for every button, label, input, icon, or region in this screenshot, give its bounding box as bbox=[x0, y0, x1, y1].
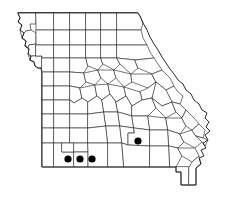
county-polygon bbox=[42, 100, 54, 114]
county-polygon bbox=[54, 100, 70, 114]
county-polygon bbox=[74, 143, 88, 152]
county-polygon bbox=[84, 70, 101, 85]
county-polygon bbox=[42, 143, 54, 167]
county-polygon bbox=[36, 45, 54, 58]
occurrence-dot bbox=[134, 137, 141, 144]
county-polygon bbox=[54, 45, 70, 58]
county-polygon bbox=[168, 130, 184, 148]
county-polygon bbox=[70, 72, 86, 88]
county-polygon bbox=[88, 143, 108, 167]
missouri-map-svg bbox=[0, 0, 225, 197]
occurrence-dot bbox=[76, 155, 83, 162]
county-polygon bbox=[54, 72, 70, 86]
county-distribution-map-figure bbox=[0, 0, 225, 197]
county-polygon bbox=[176, 167, 189, 185]
county-polygon bbox=[88, 126, 108, 143]
county-polygon bbox=[42, 86, 54, 100]
county-polygon bbox=[104, 112, 120, 126]
county-polygon bbox=[42, 72, 54, 86]
county-polygon bbox=[70, 58, 88, 73]
county-polygon bbox=[86, 13, 101, 30]
county-boundaries-layer bbox=[18, 13, 208, 185]
county-polygon bbox=[54, 86, 70, 100]
county-polygon bbox=[101, 30, 117, 45]
county-polygon bbox=[70, 13, 86, 30]
county-polygon bbox=[36, 13, 54, 30]
occurrence-dot bbox=[88, 155, 95, 162]
county-polygon bbox=[42, 114, 54, 128]
county-polygon bbox=[122, 143, 150, 167]
county-polygon bbox=[54, 30, 70, 45]
county-polygon bbox=[148, 116, 168, 130]
occurrence-dot bbox=[64, 155, 71, 162]
county-polygon bbox=[70, 128, 88, 143]
county-polygon bbox=[106, 126, 122, 143]
county-polygon bbox=[86, 58, 103, 70]
county-polygon bbox=[42, 58, 54, 72]
county-polygon bbox=[101, 45, 117, 58]
county-polygon bbox=[150, 146, 170, 167]
county-polygon bbox=[150, 130, 169, 146]
county-polygon bbox=[70, 114, 88, 128]
county-polygon bbox=[54, 114, 70, 128]
county-polygon bbox=[70, 45, 86, 58]
county-polygon bbox=[54, 128, 70, 143]
county-polygon bbox=[117, 45, 154, 60]
county-polygon bbox=[108, 143, 124, 167]
county-polygon bbox=[70, 30, 86, 45]
county-polygon bbox=[88, 112, 106, 128]
county-polygon bbox=[101, 13, 117, 30]
county-polygon bbox=[86, 45, 101, 58]
county-polygon bbox=[42, 128, 54, 143]
county-polygon bbox=[54, 58, 70, 72]
county-polygon bbox=[86, 30, 101, 45]
county-polygon bbox=[62, 143, 74, 152]
county-polygon bbox=[36, 30, 54, 45]
county-polygon bbox=[117, 30, 147, 45]
county-polygon bbox=[98, 70, 116, 84]
county-polygon bbox=[54, 13, 70, 30]
county-polygon bbox=[101, 58, 120, 70]
